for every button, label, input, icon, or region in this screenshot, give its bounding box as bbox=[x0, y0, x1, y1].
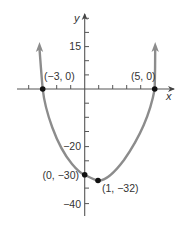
point-label-5-0: (5, 0) bbox=[131, 70, 156, 82]
x-axis-label: x bbox=[165, 90, 172, 102]
point-label-0-neg30: (0, −30) bbox=[43, 169, 79, 181]
parabola-graph: 15 −20 −40 y x (−3, 0) (5, 0) (0, −30) (… bbox=[0, 0, 185, 229]
point-1-neg32 bbox=[95, 178, 101, 184]
y-tick-label-15: 15 bbox=[69, 40, 81, 52]
y-tick-label-neg40: −40 bbox=[63, 198, 81, 210]
point-0-neg30 bbox=[82, 172, 88, 178]
y-tick-label-neg20: −20 bbox=[63, 140, 81, 152]
point-label-1-neg32: (1, −32) bbox=[102, 182, 138, 194]
parabola-curve bbox=[40, 49, 156, 181]
y-axis-label: y bbox=[73, 12, 81, 24]
point-5-0 bbox=[152, 86, 158, 92]
point-neg3-0 bbox=[40, 86, 46, 92]
point-label-neg3-0: (−3, 0) bbox=[44, 70, 75, 82]
